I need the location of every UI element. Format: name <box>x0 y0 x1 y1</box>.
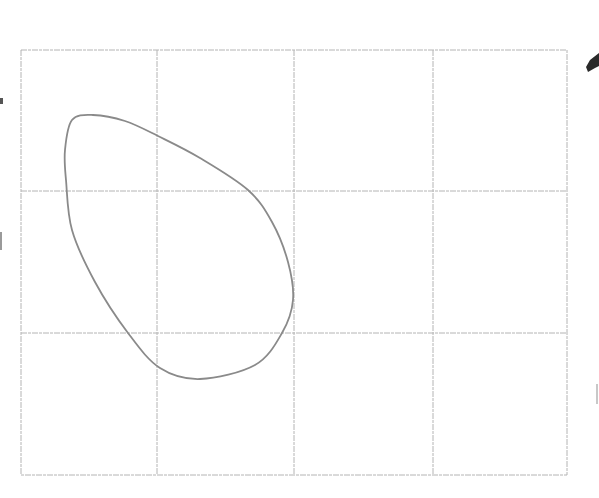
egg-curve <box>65 115 294 379</box>
diagram-canvas <box>0 0 599 498</box>
grid <box>21 50 567 475</box>
left-edge-mark-mid <box>0 232 2 250</box>
arrow-fragment-icon <box>586 53 599 72</box>
left-edge-mark-top <box>0 98 3 104</box>
right-edge-mark <box>596 384 598 404</box>
